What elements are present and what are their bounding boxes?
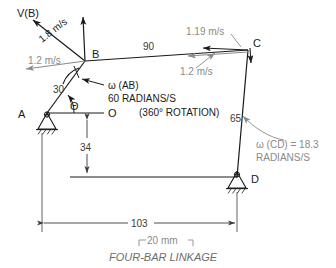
omega-cd-annotation (243, 116, 284, 140)
pivot-support-d (226, 172, 248, 194)
label-vc-upper: 1.19 m/s (186, 26, 224, 37)
pivot-support-a (36, 112, 58, 135)
label-link-ab: 30 (53, 84, 65, 95)
omega-ab-arc (63, 68, 79, 84)
label-vb-horizontal: 1.2 m/s (28, 55, 61, 66)
label-joint-c: C (253, 37, 261, 49)
label-vc-lower: 1.2 m/s (180, 66, 213, 77)
label-joint-b: B (92, 48, 99, 60)
omega-ab-leader (82, 79, 104, 85)
label-joint-a: A (18, 108, 26, 120)
label-joint-d: D (251, 173, 259, 185)
hatching-a (38, 130, 55, 135)
label-omega-ab-value: 60 RADIANS/S (108, 93, 176, 104)
omega-cd-leader (243, 116, 284, 140)
label-theta: Θ (70, 100, 79, 112)
label-link-cd: 65 (230, 113, 242, 124)
label-vb-magnitude: 1.8 m/s (36, 16, 69, 45)
vector-vc-upper (203, 48, 248, 50)
figure-canvas: V(B) 1.8 m/s 1.2 m/s B 30 Θ A O 90 1.19 … (0, 0, 336, 268)
vector-vb-vertical (83, 17, 85, 61)
label-point-o: O (108, 107, 117, 119)
label-dim-34: 34 (80, 142, 92, 153)
label-omega-cd-line1: ω (CD) = 18.3 (256, 139, 319, 150)
figure-caption: FOUR-BAR LINKAGE (109, 251, 218, 263)
vector-vc-down-tick (250, 48, 251, 63)
label-dim-103: 103 (131, 218, 148, 229)
label-omega-ab-name: ω (AB) (108, 80, 139, 91)
label-scale-bar: 20 mm (147, 235, 178, 246)
label-omega-ab-note: (360° ROTATION) (139, 107, 219, 118)
label-vb: V(B) (17, 7, 39, 19)
four-bar-linkage-diagram: V(B) 1.8 m/s 1.2 m/s B 30 Θ A O 90 1.19 … (0, 0, 336, 268)
label-link-bc: 90 (143, 41, 155, 52)
link-bc (85, 50, 248, 61)
leader-c-upper (231, 34, 241, 47)
label-omega-cd-line2: RADIANS/S (256, 152, 310, 163)
hatching-d (228, 189, 245, 194)
